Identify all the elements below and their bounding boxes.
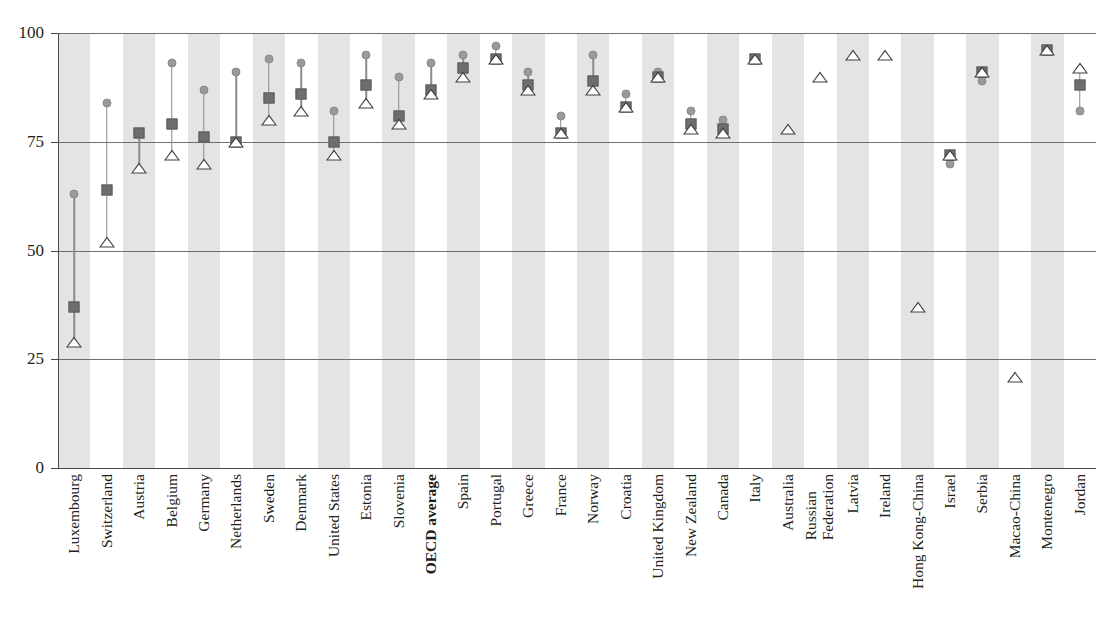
y-axis-tick-label: 25 (0, 349, 44, 369)
marker-circle (362, 50, 371, 59)
marker-circle (524, 68, 533, 77)
marker-triangle (520, 84, 536, 95)
x-axis-label: RussianFederation (804, 474, 837, 540)
data-column (253, 33, 285, 468)
y-axis-tick-label: 75 (0, 132, 44, 152)
y-axis-line (58, 33, 59, 468)
marker-circle (297, 59, 306, 68)
x-axis-label: Macao-China (1007, 474, 1024, 558)
y-axis-tick (51, 251, 58, 252)
marker-circle (102, 98, 111, 107)
data-column (123, 33, 155, 468)
marker-square (263, 93, 274, 104)
marker-square (328, 136, 339, 147)
gridline (58, 468, 1096, 469)
x-axis-label: Jordan (1071, 474, 1088, 515)
x-axis-label: Serbia (974, 474, 991, 514)
data-column (837, 33, 869, 468)
x-axis-label: Israel (942, 474, 959, 508)
marker-triangle (553, 128, 569, 139)
range-line (365, 55, 367, 103)
marker-square (361, 80, 372, 91)
data-column (415, 33, 447, 468)
x-axis-label: New Zealand (682, 474, 699, 557)
data-column (577, 33, 609, 468)
marker-circle (491, 42, 500, 51)
y-axis-tick (51, 142, 58, 143)
marker-triangle (845, 49, 861, 60)
x-axis-label: Austria (131, 474, 148, 520)
marker-triangle (164, 149, 180, 160)
marker-circle (199, 85, 208, 94)
y-axis-labels: 0255075100 (0, 0, 48, 636)
range-chart: 0255075100 LuxembourgSwitzerlandAustriaB… (0, 0, 1105, 636)
marker-circle (589, 50, 598, 59)
data-column (739, 33, 771, 468)
x-axis-label: Portugal (488, 474, 505, 527)
marker-triangle (747, 54, 763, 65)
data-column (934, 33, 966, 468)
marker-triangle (488, 54, 504, 65)
range-line (73, 194, 75, 342)
y-axis-tick (51, 359, 58, 360)
x-axis-label: Montenegro (1039, 474, 1056, 550)
x-axis-label: Greece (520, 474, 537, 518)
data-column (966, 33, 998, 468)
marker-square (101, 184, 112, 195)
marker-triangle (99, 236, 115, 247)
marker-triangle (423, 88, 439, 99)
marker-square (198, 132, 209, 143)
data-column (1031, 33, 1063, 468)
x-axis-labels: LuxembourgSwitzerlandAustriaBelgiumGerma… (58, 474, 1096, 624)
x-axis-label: Netherlands (228, 474, 245, 549)
x-axis-label: Estonia (358, 474, 375, 521)
x-axis-label: Italy (747, 474, 764, 502)
range-line (268, 59, 270, 120)
data-column (480, 33, 512, 468)
data-column (545, 33, 577, 468)
marker-triangle (877, 49, 893, 60)
marker-triangle (455, 71, 471, 82)
marker-triangle (780, 123, 796, 134)
data-column (707, 33, 739, 468)
marker-circle (70, 189, 79, 198)
x-axis-label: France (552, 474, 569, 516)
marker-triangle (1039, 45, 1055, 56)
y-axis-tick-label: 0 (0, 458, 44, 478)
data-column (220, 33, 252, 468)
marker-square (166, 119, 177, 130)
x-axis-label: Belgium (163, 474, 180, 527)
marker-square (296, 88, 307, 99)
x-axis-label: Norway (585, 474, 602, 524)
y-axis-tick-label: 100 (0, 23, 44, 43)
marker-triangle (1072, 62, 1088, 73)
marker-circle (232, 68, 241, 77)
data-column (901, 33, 933, 468)
marker-triangle (261, 115, 277, 126)
data-column (90, 33, 122, 468)
plot-area (58, 33, 1096, 468)
data-column (804, 33, 836, 468)
marker-triangle (715, 128, 731, 139)
marker-triangle (942, 149, 958, 160)
marker-triangle (196, 158, 212, 169)
range-line (333, 111, 335, 155)
marker-triangle (650, 71, 666, 82)
marker-triangle (910, 302, 926, 313)
marker-circle (394, 72, 403, 81)
x-axis-label: Canada (715, 474, 732, 520)
x-axis-label: Australia (779, 474, 796, 531)
marker-circle (946, 159, 955, 168)
range-line (171, 63, 173, 154)
range-line (301, 63, 303, 111)
range-line (106, 103, 108, 242)
marker-triangle (812, 71, 828, 82)
x-axis-label: United Kingdom (650, 474, 667, 579)
marker-triangle (293, 106, 309, 117)
marker-triangle (358, 97, 374, 108)
data-column (447, 33, 479, 468)
marker-circle (329, 107, 338, 116)
data-column (642, 33, 674, 468)
x-axis-label: Germany (196, 474, 213, 532)
data-column (772, 33, 804, 468)
